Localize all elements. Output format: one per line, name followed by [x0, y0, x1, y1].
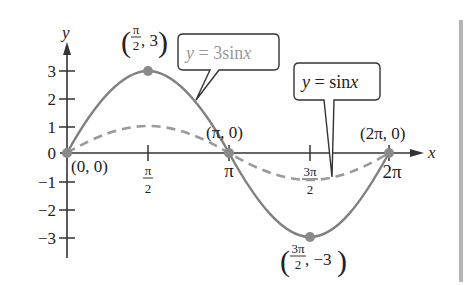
point-label-pi: (π, 0): [206, 123, 243, 142]
y-tick-labels: 3 2 1 0 −1 −2 −3: [38, 62, 56, 248]
sine-graph: y x 3 2 1 0 −1 −2 −3 π 2 π 3π 2 2π: [0, 0, 467, 285]
svg-text:, 3: , 3: [141, 31, 158, 50]
svg-text:π: π: [224, 160, 234, 181]
svg-text:3π: 3π: [291, 241, 305, 256]
svg-text:3: 3: [48, 62, 57, 81]
svg-text:y = 3sinx: y = 3sinx: [184, 43, 251, 63]
svg-text:−1: −1: [38, 173, 56, 192]
svg-text:y = sinx: y = sinx: [300, 72, 358, 92]
y-axis-arrow-icon: [63, 42, 71, 55]
x-tick-labels: π 2 π 3π 2 2π: [143, 160, 402, 197]
svg-text:, −3: , −3: [305, 250, 332, 269]
callout-3sin-x: y = 3sinx: [178, 34, 279, 100]
svg-text:0: 0: [48, 144, 57, 163]
svg-text:3π: 3π: [303, 164, 317, 179]
svg-text:2: 2: [307, 182, 314, 197]
point-label-origin: (0, 0): [71, 157, 108, 176]
svg-text:π: π: [133, 22, 140, 37]
svg-text:): ): [337, 244, 347, 278]
svg-text:(: (: [121, 25, 131, 59]
x-axis-label: x: [427, 143, 436, 162]
page-edge-bar: [459, 20, 463, 282]
point-label-min: ( 3π 2 , −3 ): [280, 241, 347, 278]
y-axis-label: y: [60, 23, 70, 42]
callout-sin-x: y = sinx: [294, 63, 380, 177]
svg-text:−2: −2: [38, 201, 56, 220]
svg-text:2: 2: [133, 38, 140, 53]
svg-text:2π: 2π: [382, 161, 402, 182]
svg-text:−3: −3: [38, 229, 56, 248]
x-axis-arrow-icon: [410, 149, 424, 157]
svg-text:): ): [158, 25, 168, 59]
point-label-2pi: (2π, 0): [360, 124, 405, 143]
svg-text:π: π: [145, 163, 152, 178]
svg-text:2: 2: [48, 90, 57, 109]
svg-text:2: 2: [145, 181, 152, 196]
svg-text:1: 1: [48, 118, 57, 137]
svg-text:(: (: [280, 244, 290, 278]
point-label-max: ( π 2 , 3 ): [121, 22, 168, 59]
svg-text:2: 2: [295, 257, 302, 272]
